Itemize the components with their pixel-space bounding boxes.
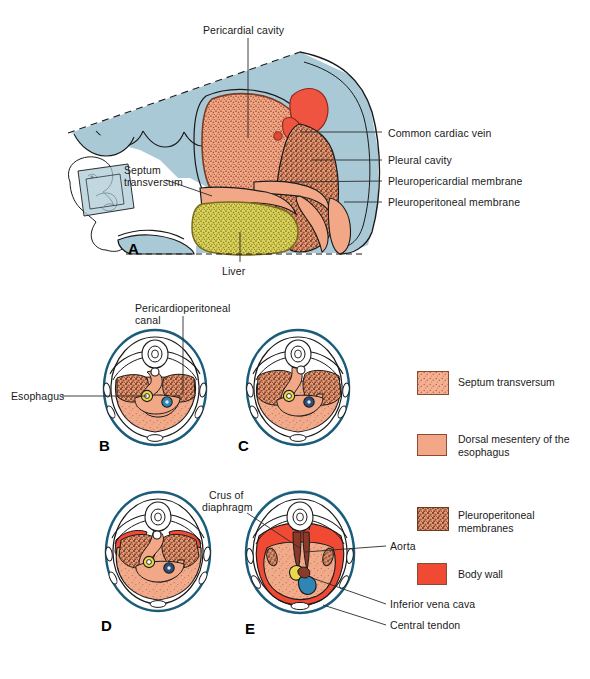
label-pericardioperitoneal-canal-line2: canal (135, 314, 161, 326)
label-inferior-vena-cava: Inferior vena cava (390, 598, 475, 610)
panel-c-artwork (246, 330, 350, 446)
label-pleuropericardial-membrane: Pleuropericardial membrane (388, 175, 523, 187)
label-septum-transversum-line2: transversum (124, 176, 183, 188)
anatomical-figure: Pericardial cavity Septum transversum Li… (0, 0, 590, 679)
dorsal-mesentery-swatch (417, 434, 447, 456)
panel-b-artwork (103, 330, 207, 446)
body-wall-swatch (417, 563, 447, 585)
legend-label-dorsal-mesentery: Dorsal mesentery of the esophagus (458, 433, 569, 458)
label-crus-of-diaphragm-line1: Crus of (209, 489, 244, 501)
panel-d-artwork (105, 492, 211, 612)
panel-letter-c: C (238, 437, 249, 454)
label-pericardial-cavity: Pericardial cavity (203, 24, 284, 36)
panel-letter-a: A (128, 240, 139, 257)
label-central-tendon: Central tendon (390, 619, 460, 631)
legend-label-body-wall: Body wall (458, 568, 503, 581)
label-pleuroperitoneal-membrane: Pleuroperitoneal membrane (388, 196, 520, 208)
label-septum-transversum-line1: Septum (124, 164, 161, 176)
label-aorta: Aorta (390, 540, 416, 552)
label-pleural-cavity: Pleural cavity (388, 154, 452, 166)
label-crus-of-diaphragm-line2: diaphragm (202, 501, 253, 513)
pleuroperitoneal-membranes-swatch (417, 507, 449, 531)
legend-label-pleuroperitoneal-membranes: Pleuroperitoneal membranes (458, 509, 534, 534)
septum-transversum-swatch (417, 371, 449, 395)
panel-a-artwork (68, 38, 382, 262)
label-esophagus: Esophagus (11, 390, 64, 402)
label-pericardioperitoneal-canal-line1: Pericardioperitoneal (135, 302, 230, 314)
legend-label-septum-transversum: Septum transversum (458, 376, 555, 389)
panel-letter-e: E (245, 620, 255, 637)
panel-e-artwork (245, 490, 355, 614)
panel-letter-d: D (101, 617, 112, 634)
label-liver: Liver (222, 265, 245, 277)
label-common-cardiac-vein: Common cardiac vein (388, 127, 491, 139)
panel-letter-b: B (99, 437, 110, 454)
